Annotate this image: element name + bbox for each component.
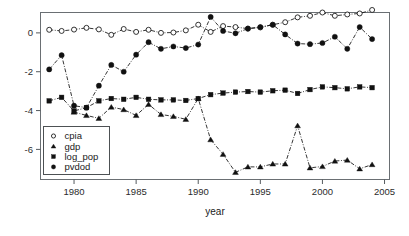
data-point-gdp [208,137,214,142]
data-point-pvdod [47,67,52,72]
data-point-gdp [295,123,301,128]
legend-marker-cpia [51,134,55,138]
y-tick-label: -4 [25,105,33,116]
data-point-log_pop [270,88,275,93]
data-point-log_pop [221,91,226,96]
data-point-pvdod [295,41,300,46]
data-point-log_pop [134,95,139,100]
x-tick-label: 1995 [250,186,271,197]
data-point-pvdod [59,53,64,58]
data-point-pvdod [345,46,350,51]
data-point-cpia [357,11,362,16]
series-line-gdp [74,99,372,173]
data-point-pvdod [196,42,201,47]
data-point-log_pop [184,98,189,103]
data-point-cpia [208,29,213,34]
data-point-gdp [245,164,251,169]
data-point-log_pop [295,91,300,96]
data-point-pvdod [208,14,213,19]
data-point-cpia [171,30,176,35]
data-point-log_pop [308,87,313,92]
data-point-cpia [183,28,188,33]
data-point-cpia [109,32,114,37]
data-point-log_pop [357,85,362,90]
legend-marker-pvdod [51,165,55,169]
x-tick-label: 1990 [188,186,209,197]
data-point-log_pop [258,90,263,95]
data-point-pvdod [332,34,337,39]
data-point-pvdod [158,46,163,51]
data-point-gdp [220,152,226,157]
data-point-gdp [108,104,114,109]
data-point-gdp [146,102,152,107]
legend-label-pvdod: pvdod [65,161,91,172]
data-point-pvdod [171,44,176,49]
data-point-log_pop [333,85,338,90]
data-point-log_pop [283,88,288,93]
legend-marker-log_pop [52,155,56,159]
data-point-pvdod [258,24,263,29]
y-tick-label: -6 [25,144,33,155]
data-point-log_pop [208,92,213,97]
data-point-cpia [345,12,350,17]
data-point-gdp [233,170,239,175]
data-point-gdp [96,116,102,121]
data-point-pvdod [320,40,325,45]
data-point-gdp [369,162,375,167]
data-point-cpia [146,27,151,32]
chart-canvas: 0-2-4-6 198019851990199520002005 cpiagdp… [0,0,409,236]
chart-figure: 0-2-4-6 198019851990199520002005 cpiagdp… [0,0,409,236]
data-point-log_pop [159,98,164,103]
data-point-cpia [96,27,101,32]
data-point-cpia [283,20,288,25]
data-point-pvdod [357,24,362,29]
data-point-log_pop [320,85,325,90]
data-point-pvdod [146,40,151,45]
data-point-log_pop [109,96,114,101]
x-tick-label: 2005 [374,186,395,197]
data-point-pvdod [270,22,275,27]
data-point-cpia [295,15,300,20]
data-point-cpia [59,28,64,33]
data-point-log_pop [196,96,201,101]
y-tick-label: -2 [25,66,33,77]
data-point-cpia [233,25,238,30]
data-point-log_pop [59,95,64,100]
x-axis-ticks: 198019851990199520002005 [63,180,395,198]
data-point-pvdod [370,37,375,42]
data-point-cpia [134,29,139,34]
data-point-cpia [332,13,337,18]
data-point-cpia [121,27,126,32]
data-point-log_pop [146,97,151,102]
data-point-log_pop [370,85,375,90]
x-tick-label: 1985 [126,186,147,197]
data-point-pvdod [84,105,89,110]
x-tick-label: 1980 [63,186,84,197]
data-point-cpia [47,27,52,32]
data-point-pvdod [183,45,188,50]
data-point-pvdod [96,83,101,88]
data-point-gdp [307,165,313,170]
data-point-gdp [121,107,127,112]
data-point-log_pop [233,90,238,95]
data-point-pvdod [134,52,139,57]
data-point-pvdod [220,28,225,33]
y-tick-label: 0 [28,27,33,38]
x-axis-label: year [205,206,225,217]
data-point-pvdod [121,69,126,74]
data-point-pvdod [307,42,312,47]
data-point-gdp [320,164,326,169]
data-point-cpia [308,13,313,18]
data-point-pvdod [245,26,250,31]
data-point-cpia [72,27,77,32]
data-point-cpia [158,30,163,35]
data-point-log_pop [97,99,102,104]
data-point-cpia [84,25,89,30]
x-tick-label: 2000 [312,186,333,197]
chart-legend: cpiagdplog_poppvdod [44,127,110,175]
data-point-log_pop [171,98,176,103]
data-point-log_pop [47,99,52,104]
data-point-pvdod [283,32,288,37]
data-point-log_pop [345,87,350,92]
data-point-pvdod [233,31,238,36]
